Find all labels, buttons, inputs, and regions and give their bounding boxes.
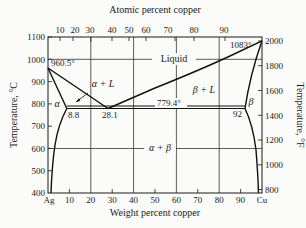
svg-text:600: 600 bbox=[32, 144, 46, 154]
region-beta-l: β + L bbox=[192, 84, 216, 95]
region-beta: β bbox=[248, 96, 254, 107]
annotation-ag-melt: 960.5° bbox=[51, 58, 75, 68]
svg-text:20: 20 bbox=[71, 25, 81, 35]
svg-text:50: 50 bbox=[151, 195, 161, 205]
solvus-alpha-line bbox=[51, 109, 67, 194]
top-ticks bbox=[60, 37, 225, 42]
svg-text:50: 50 bbox=[125, 25, 135, 35]
annotation-cu-melt: 1083° bbox=[230, 40, 252, 50]
top-tick-labels: 10 20 30 40 50 60 70 80 90 bbox=[56, 25, 230, 35]
region-alpha-l: α + L bbox=[92, 78, 115, 89]
svg-text:30: 30 bbox=[108, 195, 118, 205]
region-liquid: Liquid bbox=[161, 53, 188, 64]
svg-text:10: 10 bbox=[65, 195, 75, 205]
right-tick-labels: 2000 1800 1600 1400 1200 1000 800 bbox=[265, 36, 284, 195]
svg-text:2000: 2000 bbox=[265, 36, 284, 46]
right-axis-label: Temperature, °F bbox=[295, 83, 306, 148]
svg-text:80: 80 bbox=[190, 25, 200, 35]
svg-text:500: 500 bbox=[32, 166, 46, 176]
arrow-head-icon bbox=[76, 98, 80, 102]
svg-text:60: 60 bbox=[142, 25, 152, 35]
svg-text:90: 90 bbox=[220, 25, 230, 35]
phase-diagram: Atomic percent copper 10 20 30 40 50 60 … bbox=[0, 0, 306, 228]
solvus-beta-line bbox=[245, 109, 259, 194]
svg-text:1100: 1100 bbox=[27, 32, 45, 42]
svg-text:1600: 1600 bbox=[265, 86, 284, 96]
svg-text:800: 800 bbox=[265, 185, 279, 195]
svg-text:90: 90 bbox=[236, 195, 246, 205]
svg-text:1000: 1000 bbox=[27, 55, 46, 65]
svg-text:Ag: Ag bbox=[44, 195, 55, 205]
right-ticks bbox=[258, 41, 262, 190]
svg-text:10: 10 bbox=[56, 25, 66, 35]
region-alpha: α bbox=[54, 98, 60, 109]
svg-text:900: 900 bbox=[32, 77, 46, 87]
annotation-alpha-comp: 8.8 bbox=[68, 110, 80, 120]
svg-text:700: 700 bbox=[32, 121, 46, 131]
bottom-axis-label: Weight percent copper bbox=[110, 207, 201, 218]
left-axis-label: Temperature, °C bbox=[8, 82, 19, 148]
svg-text:800: 800 bbox=[32, 99, 46, 109]
svg-text:70: 70 bbox=[193, 195, 203, 205]
bottom-ticks bbox=[69, 189, 240, 193]
svg-text:1200: 1200 bbox=[265, 135, 284, 145]
svg-text:60: 60 bbox=[172, 195, 182, 205]
region-alpha-beta: α + β bbox=[149, 142, 171, 153]
annotation-eutectic-comp: 28.1 bbox=[102, 110, 118, 120]
svg-text:1000: 1000 bbox=[265, 160, 284, 170]
left-tick-labels: 1100 1000 900 800 700 600 500 400 bbox=[27, 32, 46, 198]
svg-text:80: 80 bbox=[215, 195, 225, 205]
bottom-tick-labels: Ag 10 20 30 40 50 60 70 80 90 Cu bbox=[44, 195, 268, 205]
svg-text:1800: 1800 bbox=[265, 61, 284, 71]
top-axis-label: Atomic percent copper bbox=[109, 4, 201, 15]
svg-text:40: 40 bbox=[108, 25, 118, 35]
svg-text:Cu: Cu bbox=[257, 195, 268, 205]
svg-text:70: 70 bbox=[164, 25, 174, 35]
svg-text:40: 40 bbox=[129, 195, 139, 205]
annotation-beta-comp: 92 bbox=[233, 109, 242, 119]
svg-text:1400: 1400 bbox=[265, 111, 284, 121]
svg-text:30: 30 bbox=[86, 25, 96, 35]
svg-text:20: 20 bbox=[86, 195, 96, 205]
annotation-eutectic-temp: 779.4° bbox=[157, 98, 181, 108]
